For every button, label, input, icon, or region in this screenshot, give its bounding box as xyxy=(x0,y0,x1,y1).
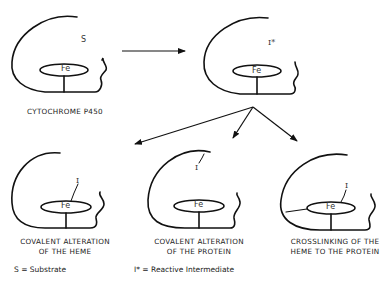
caption-crosslinking: CROSSLINKING OF THE HEME TO THE PROTEIN xyxy=(280,237,389,257)
legend-substrate: S = Substrate xyxy=(14,265,66,274)
fe-label-intermediate: Fe xyxy=(252,66,261,75)
protein-shape-p450 xyxy=(12,16,107,92)
caption-crosslinking-line1: CROSSLINKING OF THE xyxy=(280,237,389,247)
substrate-symbol: S xyxy=(81,35,86,44)
branch-arrows xyxy=(135,107,297,144)
legend-intermediate: I* = Reactive Intermediate xyxy=(134,265,234,274)
intermediate-symbol-protein-alteration: I xyxy=(195,163,198,172)
caption-heme-alteration-line2: OF THE HEME xyxy=(10,247,120,257)
intermediate-symbol: I* xyxy=(268,38,275,47)
caption-protein-alteration-line1: COVALENT ALTERATION xyxy=(144,237,254,247)
fe-label-crosslinking: Fe xyxy=(326,202,335,211)
fe-label-heme-alteration: Fe xyxy=(61,201,70,210)
intermediate-symbol-crosslinking: I xyxy=(345,181,348,190)
intermediate-symbol-heme-alteration: I xyxy=(76,176,79,185)
caption-heme-alteration: COVALENT ALTERATION OF THE HEME xyxy=(10,237,120,257)
protein-shape-heme-alteration xyxy=(12,153,104,228)
caption-p450: CYTOCHROME P450 xyxy=(20,107,110,117)
caption-crosslinking-line2: HEME TO THE PROTEIN xyxy=(280,247,389,257)
caption-p450-line1: CYTOCHROME P450 xyxy=(27,107,103,116)
fe-label-protein-alteration: Fe xyxy=(194,200,203,209)
caption-protein-alteration: COVALENT ALTERATION OF THE PROTEIN xyxy=(144,237,254,257)
caption-heme-alteration-line1: COVALENT ALTERATION xyxy=(10,237,120,247)
protein-shape-intermediate xyxy=(204,18,298,94)
fe-label-p450: Fe xyxy=(61,64,70,73)
caption-protein-alteration-line2: OF THE PROTEIN xyxy=(144,247,254,257)
protein-shape-crosslinking xyxy=(281,154,375,230)
